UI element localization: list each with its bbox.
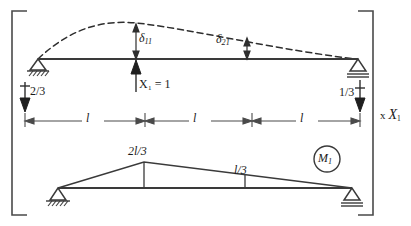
unit-load-label: X₁ = 1 xyxy=(139,78,171,90)
span-label-1: l xyxy=(86,112,89,124)
deflected-shape-curve xyxy=(38,22,358,59)
upper-left-support xyxy=(27,59,49,76)
moment-diagram-outline xyxy=(58,162,352,188)
delta21-dimension-arrow xyxy=(244,38,250,59)
lower-right-support xyxy=(341,188,363,206)
lower-diagram xyxy=(46,146,363,206)
span-label-2: l xyxy=(193,112,196,124)
ordinate-label-l-3: l/3 xyxy=(234,164,247,176)
right-reaction-label: 1/3 xyxy=(339,86,354,98)
upper-right-support xyxy=(347,59,369,77)
ordinate-label-2l-3: 2l/3 xyxy=(128,145,147,157)
left-reaction-arrow xyxy=(20,82,30,112)
m1-tag-label: M1 xyxy=(318,152,332,166)
engineering-figure xyxy=(0,0,411,226)
delta21-label: δ21 xyxy=(216,33,230,47)
span-label-3: l xyxy=(300,112,303,124)
right-reaction-arrow xyxy=(355,80,365,112)
hatching-left-upper xyxy=(29,71,49,76)
delta11-label: δ11 xyxy=(139,32,152,46)
left-reaction-label: 2/3 xyxy=(30,85,45,97)
multiplier-label: xX1 xyxy=(380,108,401,122)
hatching-left-lower xyxy=(48,201,68,206)
lower-left-support xyxy=(46,188,70,206)
